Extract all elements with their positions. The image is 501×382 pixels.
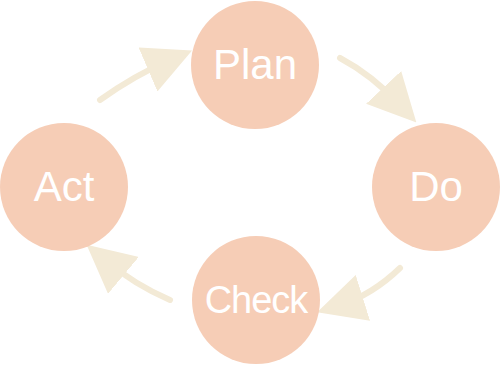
node-act: Act — [0, 123, 128, 251]
node-check-label: Check — [205, 281, 308, 319]
node-check: Check — [192, 236, 320, 364]
arrow-plan-to-do — [340, 58, 400, 105]
node-plan-label: Plan — [213, 44, 297, 86]
node-do: Do — [372, 123, 500, 251]
node-act-label: Act — [34, 166, 95, 208]
arrow-act-to-plan — [100, 60, 170, 100]
node-do-label: Do — [409, 166, 463, 208]
arrow-check-to-act — [105, 260, 170, 300]
arrow-do-to-check — [340, 268, 400, 305]
node-plan: Plan — [191, 1, 319, 129]
